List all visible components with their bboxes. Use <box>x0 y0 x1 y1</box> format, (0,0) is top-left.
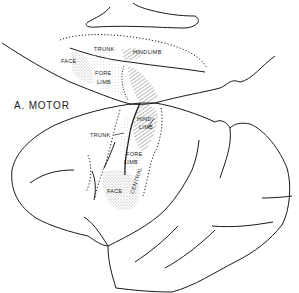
occipital-sulcus <box>262 196 292 198</box>
frontal-sulcus <box>30 170 74 183</box>
superior-temporal-sulcus <box>135 226 178 262</box>
lower-temporal-sulcus <box>165 230 215 268</box>
lower-frontal-dots <box>86 155 91 192</box>
lower-label-fore: FORE <box>126 152 142 158</box>
lower-label-trunk: TRUNK <box>90 133 110 139</box>
upper-top-gyrus <box>86 3 198 28</box>
lower-label-hind: HIND <box>137 117 152 123</box>
upper-label-hindlimb: HINDLIMB <box>133 50 162 56</box>
lower-trunk-region <box>120 117 133 150</box>
lower-label-hind-limb: LIMB <box>139 125 153 131</box>
inferior-occipital-line <box>212 222 273 227</box>
figure-title: A. MOTOR <box>14 100 70 111</box>
precentral-line <box>104 142 115 168</box>
upper-label-face: FACE <box>61 59 77 65</box>
brain-diagram <box>0 0 299 293</box>
lower-label-face: FACE <box>107 189 123 195</box>
lunate-sulcus <box>192 140 199 170</box>
upper-label-fore: FORE <box>95 71 111 77</box>
upper-label-trunk: TRUNK <box>94 47 114 53</box>
lower-label-fore-limb: LIMB <box>124 160 138 166</box>
upper-hindlimb-lower-region <box>128 66 158 103</box>
intraparietal-sulcus <box>220 128 230 178</box>
motor-cortex-figure: A. MOTOR TRUNK HINDLIMB FACE FORE LIMB T… <box>0 0 299 293</box>
arcuate-sulcus <box>92 171 95 200</box>
upper-label-limb: LIMB <box>97 80 111 86</box>
